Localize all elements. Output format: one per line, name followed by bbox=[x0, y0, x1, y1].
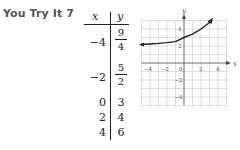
x-tick-label: 0 bbox=[179, 66, 183, 72]
x-axis-label: x bbox=[233, 60, 237, 68]
table-row-x: 4 bbox=[84, 126, 106, 139]
table-column-divider bbox=[110, 12, 111, 140]
table-header-x: x bbox=[92, 10, 98, 23]
graph-canvas: x y −4 −2 0 2 4 4 2 −2 −4 bbox=[135, 0, 240, 120]
table-row-y: 3 bbox=[115, 96, 127, 109]
x-axis-arrow-icon bbox=[226, 61, 231, 65]
exercise-title: You Try It 7 bbox=[3, 7, 74, 20]
x-tick-label: 2 bbox=[199, 66, 203, 72]
y-tick-label: −4 bbox=[175, 94, 184, 100]
table-row-x: −2 bbox=[84, 71, 106, 84]
table-header-y: y bbox=[117, 10, 123, 23]
table-row-y: 4 bbox=[115, 111, 127, 124]
x-tick-label: 4 bbox=[216, 66, 220, 72]
table-row-x: 2 bbox=[84, 111, 106, 124]
x-tick-label: −2 bbox=[161, 66, 169, 72]
fraction-numerator: 5 bbox=[118, 62, 124, 73]
fraction-denominator: 2 bbox=[118, 76, 124, 87]
y-tick-label: 2 bbox=[178, 43, 182, 49]
table-row-y: 6 bbox=[115, 126, 127, 139]
table-row-x: −4 bbox=[84, 36, 106, 49]
y-tick-label: −2 bbox=[175, 77, 183, 83]
x-tick-labels: −4 −2 0 2 4 bbox=[144, 66, 220, 72]
axes bbox=[142, 16, 230, 106]
fraction-denominator: 4 bbox=[118, 41, 124, 52]
fraction-numerator: 9 bbox=[118, 27, 124, 38]
table-row-x: 0 bbox=[84, 96, 106, 109]
y-tick-label: 4 bbox=[178, 26, 182, 32]
table-row-y-fraction: 5 2 bbox=[114, 62, 128, 87]
function-graph: x y −4 −2 0 2 4 4 2 −2 −4 bbox=[135, 0, 240, 124]
fraction-bar bbox=[115, 74, 127, 75]
table-header-divider bbox=[84, 24, 129, 25]
x-tick-label: −4 bbox=[144, 66, 153, 72]
function-curve bbox=[142, 21, 212, 45]
fraction-bar bbox=[115, 39, 127, 40]
y-axis-label: y bbox=[181, 7, 187, 15]
table-row-y-fraction: 9 4 bbox=[114, 27, 128, 52]
